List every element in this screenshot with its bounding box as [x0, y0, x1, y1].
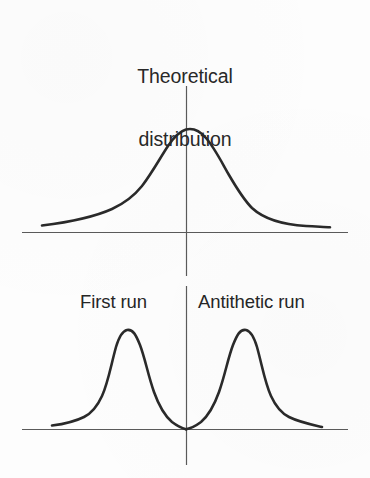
antithetic-run-curve — [186, 330, 322, 429]
antithetic-run-label: Antithetic run — [198, 292, 305, 312]
chart-antithetic-runs — [22, 250, 348, 465]
figure-root: Theoretical distribution First run Antit… — [0, 0, 370, 478]
first-run-curve — [52, 330, 186, 429]
first-run-label: First run — [80, 292, 147, 312]
chart-title-line-1: Theoretical — [0, 66, 370, 87]
chart-title-line-2: distribution — [0, 129, 370, 150]
chart-title: Theoretical distribution — [0, 24, 370, 192]
